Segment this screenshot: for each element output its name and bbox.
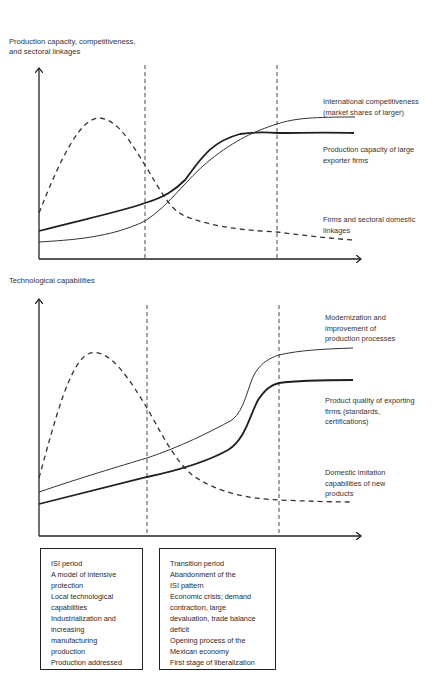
period-box-transition: Transition period Abandonment of the ISI… bbox=[159, 548, 276, 670]
period-box-line: ISI pattern bbox=[170, 580, 275, 591]
top-series-domestic-linkages bbox=[39, 118, 353, 240]
top-series-label-domestic-linkages: Firms and sectoral domestic linkages bbox=[323, 215, 415, 236]
period-box-line: Transition period bbox=[170, 558, 275, 569]
bottom-series-label-domestic-imitation: Domestic imitation capabilities of new p… bbox=[325, 468, 385, 500]
top-series-label-international-competitiveness: International competitiveness (market sh… bbox=[323, 97, 419, 118]
period-box-line: manufacturing bbox=[51, 635, 142, 646]
period-box-line: Industrialization and bbox=[51, 613, 142, 624]
period-box-line: ISI period bbox=[51, 558, 142, 569]
period-box-line: Opening process of the bbox=[170, 635, 275, 646]
period-box-line: Production addressed bbox=[51, 657, 142, 668]
top-series-international-competitiveness bbox=[39, 117, 355, 242]
period-box-line: Abandonment of the bbox=[170, 569, 275, 580]
period-box-line: protection bbox=[51, 580, 142, 591]
bottom-series-modernization bbox=[39, 348, 353, 492]
period-box-line: contraction, large bbox=[170, 602, 275, 613]
bottom-series-label-product-quality: Product quality of exporting firms (stan… bbox=[325, 396, 415, 428]
period-box-isi: ISI period A model of intensive protecti… bbox=[40, 548, 143, 670]
period-box-line: deficit bbox=[170, 624, 275, 635]
top-chart bbox=[39, 65, 360, 259]
top-series-production-capacity bbox=[39, 132, 354, 231]
period-box-line: A model of intensive bbox=[51, 569, 142, 580]
period-box-line: devaluation, trade balance bbox=[170, 613, 275, 624]
period-box-line: production bbox=[51, 646, 142, 657]
period-box-line: increasing bbox=[51, 624, 142, 635]
bottom-series-domestic-imitation bbox=[39, 352, 353, 502]
period-box-line: Economic crisis; demand bbox=[170, 591, 275, 602]
period-box-line: Mexican economy bbox=[170, 646, 275, 657]
bottom-series-label-modernization: Modernization and improvement of product… bbox=[325, 313, 395, 345]
bottom-chart bbox=[39, 300, 360, 536]
bottom-series-product-quality bbox=[39, 380, 353, 504]
period-box-line: First stage of liberalization bbox=[170, 657, 275, 668]
bottom-chart-y-axis-label: Technological capabilities bbox=[9, 276, 95, 286]
period-box-line: Local technological bbox=[51, 591, 142, 602]
top-series-label-production-capacity: Production capacity of large exporter fi… bbox=[323, 145, 414, 166]
period-box-line: capabilities bbox=[51, 602, 142, 613]
